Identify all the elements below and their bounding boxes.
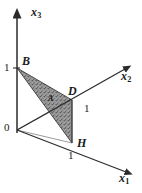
tick-label-x2-1: 1	[84, 103, 90, 114]
tick-label-x1-1: 1	[68, 150, 74, 161]
axis-label-x1: x1	[119, 172, 129, 186]
axis-label-x2: x2	[121, 70, 131, 84]
point-label-H: H	[77, 137, 86, 149]
point-label-B: B	[22, 55, 30, 67]
point-label-D: D	[68, 85, 77, 97]
origin-label: 0	[4, 122, 10, 133]
axis-label-x3: x3	[31, 6, 41, 20]
tick-label-x3-1: 1	[4, 62, 10, 73]
point-label-A: A	[48, 95, 53, 103]
coordinate-diagram: x3 x2 x1 0 1 1 1 B D H A	[0, 0, 142, 193]
